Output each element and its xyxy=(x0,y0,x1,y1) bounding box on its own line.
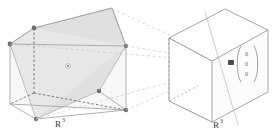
cross-section-vertex xyxy=(97,89,101,93)
figure-canvas: R 3 xyxy=(0,0,273,133)
target-cube-group: 0 0 0 R 3 xyxy=(169,9,268,130)
source-cube-group: R 3 xyxy=(8,8,129,129)
vector-entry: 0 xyxy=(245,61,248,67)
vector-entry: 0 xyxy=(245,71,248,77)
right-axis-label-exponent: 3 xyxy=(220,118,223,124)
left-axis-label: R 3 xyxy=(55,117,65,129)
cross-section-vertex xyxy=(32,26,37,31)
right-axis-label: R 3 xyxy=(213,118,223,130)
left-axis-label-base: R xyxy=(55,119,61,129)
left-axis-label-exponent: 3 xyxy=(62,117,65,123)
figure-svg: R 3 xyxy=(0,0,273,133)
origin-dot xyxy=(228,60,234,65)
vector-entry: 0 xyxy=(245,51,248,57)
right-axis-label-base: R xyxy=(213,120,219,130)
